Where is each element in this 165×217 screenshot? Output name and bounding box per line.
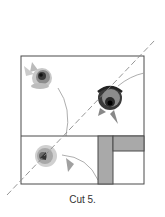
figure-caption: Cut 5. xyxy=(0,194,165,205)
quilt-block-diagram xyxy=(0,0,165,217)
top-right-strip xyxy=(113,136,144,151)
vertical-strip xyxy=(98,136,113,184)
